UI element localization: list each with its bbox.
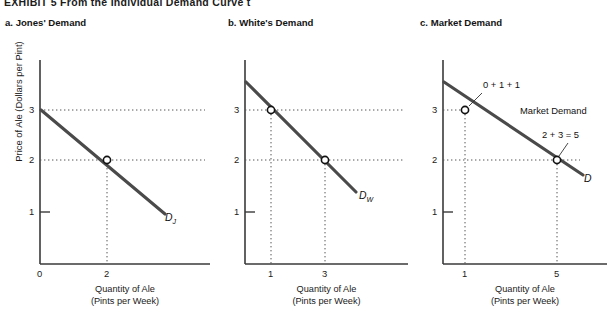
y-tick-label-3: 3 bbox=[29, 104, 34, 115]
data-point-marker bbox=[553, 156, 560, 163]
y-axis-title: Price of Ale (Dollars per Pint) bbox=[13, 2, 24, 202]
x-axis-title: Quantity of Ale (Pints per Week) bbox=[40, 283, 210, 307]
data-point-marker bbox=[103, 156, 110, 163]
x-tick-label-5: 5 bbox=[554, 268, 559, 279]
demand-curve-jones bbox=[41, 110, 165, 214]
panel-market: c. Market Demand 3 2 1 1 5 0 + 1 + 1 Mar… bbox=[420, 0, 607, 323]
y-tick-label-2: 2 bbox=[432, 154, 437, 165]
y-tick-label-2: 2 bbox=[234, 154, 239, 165]
y-tick-label-1: 1 bbox=[29, 206, 34, 217]
y-tick-label-1: 1 bbox=[432, 206, 437, 217]
x-axis-title-line2: (Pints per Week) bbox=[245, 295, 408, 307]
curve-label-market: D bbox=[584, 173, 592, 186]
demand-curve-white bbox=[246, 82, 356, 192]
chart-market-demand bbox=[420, 0, 607, 323]
curve-label-subscript: W bbox=[367, 196, 374, 203]
x-axis-title-line2: (Pints per Week) bbox=[443, 295, 607, 307]
x-axis-title: Quantity of Ale (Pints per Week) bbox=[245, 283, 408, 307]
curve-label-jones: DJ bbox=[165, 212, 176, 225]
panel-jones: a. Jones' Demand 3 2 1 0 2 DJ Price of A… bbox=[5, 0, 210, 323]
x-axis-title-line1: Quantity of Ale bbox=[245, 283, 408, 295]
annotation-leader-line-right bbox=[559, 143, 568, 156]
x-axis-title-line2: (Pints per Week) bbox=[40, 295, 210, 307]
curve-label-letter: D bbox=[165, 212, 173, 223]
origin-tick-label-0: 0 bbox=[37, 268, 42, 279]
x-tick-label-3: 3 bbox=[322, 268, 327, 279]
data-point-marker bbox=[321, 156, 328, 163]
data-point-marker bbox=[267, 106, 274, 113]
annotation-market-demand: Market Demand bbox=[520, 105, 587, 116]
panel-white: b. White's Demand 3 2 1 1 3 DW Quantity … bbox=[228, 0, 408, 323]
x-axis-title-line1: Quantity of Ale bbox=[443, 283, 607, 295]
y-tick-label-2: 2 bbox=[29, 154, 34, 165]
annotation-sum-right: 2 + 3 = 5 bbox=[542, 129, 579, 140]
x-tick-label-1: 1 bbox=[462, 268, 467, 279]
annotation-sum-left: 0 + 1 + 1 bbox=[483, 79, 520, 90]
y-tick-label-3: 3 bbox=[234, 104, 239, 115]
curve-label-subscript: J bbox=[173, 218, 177, 225]
curve-label-white: DW bbox=[359, 190, 373, 203]
y-tick-label-1: 1 bbox=[234, 206, 239, 217]
curve-label-letter: D bbox=[359, 190, 367, 201]
x-axis-title-line1: Quantity of Ale bbox=[40, 283, 210, 295]
curve-label-letter: D bbox=[584, 173, 592, 184]
data-point-marker bbox=[461, 106, 468, 113]
x-tick-label-1: 1 bbox=[268, 268, 273, 279]
x-tick-label-2: 2 bbox=[104, 268, 109, 279]
y-tick-label-3: 3 bbox=[432, 104, 437, 115]
x-axis-title: Quantity of Ale (Pints per Week) bbox=[443, 283, 607, 307]
chart-white-demand bbox=[228, 0, 408, 323]
